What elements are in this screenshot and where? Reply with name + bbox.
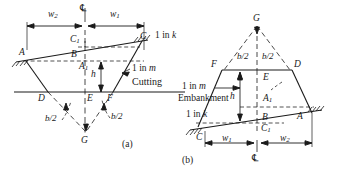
projection-left-a [48,92,86,132]
projection-right-b [257,26,290,70]
ground-line-a [16,40,148,62]
leader-b2-right-b [271,82,282,90]
dim-label-h-a: h [91,70,96,80]
arrow-apex-g-b [255,27,260,34]
point-label-c-a: C [140,32,146,42]
dim-label-b2-left-b: b/2 [237,52,249,61]
arrow-w2-left-a [27,24,34,29]
point-label-g-a: G [81,136,88,146]
arrow-b2-right-a [102,103,107,110]
point-label-c1-b: C1 [261,124,271,134]
dim-label-b2-right-a: b/2 [111,112,123,121]
dim-label-w1-b: w1 [222,134,232,144]
arrow-b2-left-a [64,103,69,110]
slope-label-m-a: 1 in m [132,64,156,74]
arrow-h-top-a [99,62,104,69]
title-cutting-a: Cutting [132,77,162,87]
arrow-w1-left-b [205,141,212,146]
point-label-g-b: G [253,14,260,24]
slope-label-k-b: 1 in k [186,110,207,120]
arrow-h-bottom-b [238,114,243,121]
slope-label-k-a: 1 in k [155,31,176,41]
point-label-c-b: C [196,133,202,143]
dim-label-b2-right-b: b/2 [262,52,274,61]
arrow-w1-left-a [88,24,95,29]
arrow-h-bottom-a [99,85,104,92]
dim-label-w2-b: w2 [280,134,290,144]
arrow-slope-m-b [233,86,240,91]
title-embankment-b: Embankment [178,94,229,104]
centerline-symbol-a: ℄ [80,2,86,13]
centerline-symbol-b: ℄ [252,152,258,163]
arrow-w1-right-a [137,24,144,29]
side-slope-left-a [26,61,48,92]
point-label-e-a: E [87,94,93,104]
point-label-b-b: B [262,113,268,123]
slope-label-m-b: 1 in m [182,82,206,92]
point-label-d-a: D [38,94,45,104]
figure-linework [0,0,361,183]
arrow-slope-m-a [122,72,129,76]
caption-b: (b) [182,156,193,166]
arrow-w2-right-b [305,141,312,146]
projection-left-b [224,26,257,70]
point-label-e-b: E [263,73,269,83]
arrow-w2-right-a [75,24,82,29]
point-label-d-b: D [294,60,301,70]
arrow-w1-right-b [247,141,254,146]
engineering-figure: ℄ w2 w1 C1 C 1 in k A B A1 h 1 in m Cutt… [0,0,361,183]
dim-label-w2-a: w2 [48,10,58,20]
arrow-w2-left-b [261,141,268,146]
point-label-a1-b: A1 [263,94,272,104]
side-slope-right-b [292,70,312,113]
point-label-b-a: B [71,50,77,60]
point-label-f-a: F [107,94,113,104]
caption-a: (a) [122,140,133,150]
point-label-a1-a: A1 [79,62,88,72]
point-label-a-a: A [19,48,25,58]
dim-label-b2-left-a: b/2 [45,114,57,123]
point-label-a-b: A [297,112,303,122]
dim-label-h-b: h [230,92,235,102]
point-label-f-b: F [211,60,217,70]
point-label-c1-a: C1 [70,35,80,45]
dim-label-w1-a: w1 [110,10,120,20]
